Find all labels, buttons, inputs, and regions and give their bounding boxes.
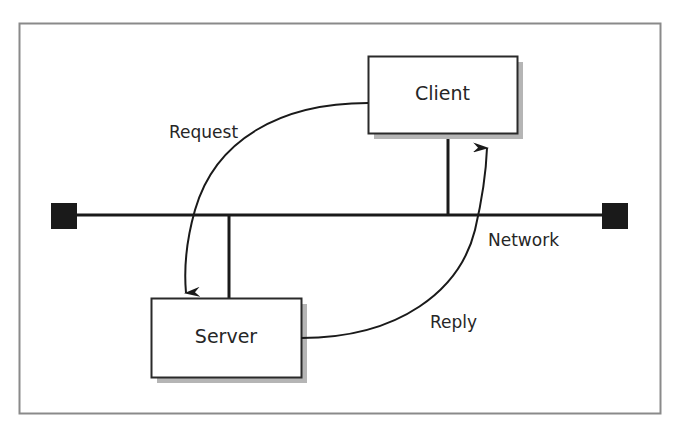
- outer-frame: [20, 24, 661, 414]
- client-label: Client: [368, 84, 517, 103]
- network-label: Network: [488, 232, 559, 249]
- request-label: Request: [169, 124, 238, 141]
- reply-label: Reply: [430, 314, 477, 331]
- right-terminator-icon: [602, 203, 628, 229]
- server-label: Server: [151, 327, 301, 346]
- left-terminator-icon: [51, 203, 77, 229]
- reply-arrow: [301, 148, 487, 338]
- diagram-canvas: [0, 0, 678, 431]
- client-server-diagram: Client Server Request Network Reply: [0, 0, 678, 431]
